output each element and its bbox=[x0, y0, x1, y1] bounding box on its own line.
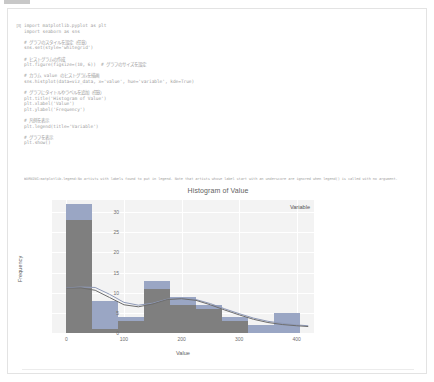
y-axis-tick-label: 30 bbox=[79, 209, 119, 215]
code-line: plt.show() bbox=[24, 140, 420, 146]
cell-prompt-label: [3] bbox=[12, 23, 21, 29]
y-axis-tick-label: 15 bbox=[79, 270, 119, 276]
notebook-code-cell[interactable]: [3] import matplotlib.pyplot as pltimpor… bbox=[7, 8, 427, 374]
x-axis-tick-label: 0 bbox=[51, 336, 81, 342]
y-axis-tick-label: 25 bbox=[79, 229, 119, 235]
y-axis-label: Frequency bbox=[17, 256, 23, 282]
x-axis-label: Value bbox=[52, 350, 314, 356]
chart-title: Histogram of Value bbox=[22, 187, 414, 194]
x-axis-tick-label: 400 bbox=[282, 336, 312, 342]
previous-cell-sliver bbox=[0, 0, 434, 7]
x-axis-tick-label: 100 bbox=[109, 336, 139, 342]
y-axis-tick-label: 5 bbox=[79, 310, 119, 316]
previous-cell-ghost-text bbox=[4, 0, 30, 4]
x-axis-tick-label: 200 bbox=[167, 336, 197, 342]
warning-output: WARNING:matplotlib.legend:No artists wit… bbox=[24, 177, 424, 182]
y-axis-tick-label: 10 bbox=[79, 290, 119, 296]
figure-bottom-rule bbox=[22, 369, 414, 370]
histogram-figure: Histogram of Value Variable 051015202530… bbox=[22, 187, 414, 372]
legend-title: Variable bbox=[290, 204, 310, 210]
x-axis-tick-label: 300 bbox=[224, 336, 254, 342]
code-editor[interactable]: import matplotlib.pyplot as pltimport se… bbox=[24, 23, 420, 146]
y-axis-tick-label: 20 bbox=[79, 249, 119, 255]
